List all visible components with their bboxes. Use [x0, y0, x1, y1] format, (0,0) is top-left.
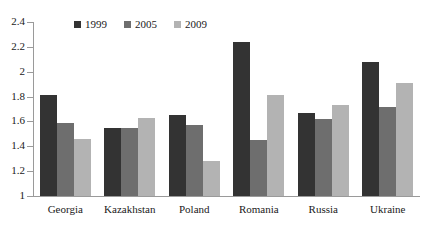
- bar[interactable]: [74, 139, 91, 196]
- y-axis-tick-label: 1: [1, 190, 25, 201]
- bar[interactable]: [138, 118, 155, 196]
- bar-group: [169, 22, 220, 196]
- bar-group: [298, 22, 349, 196]
- bar[interactable]: [362, 62, 379, 196]
- bar[interactable]: [203, 161, 220, 196]
- x-axis-category-label: Russia: [291, 203, 356, 215]
- bar[interactable]: [186, 125, 203, 196]
- bar[interactable]: [396, 83, 413, 196]
- x-axis-category-label: Ukraine: [356, 203, 421, 215]
- x-axis-category-label: Kazakhstan: [98, 203, 163, 215]
- bar[interactable]: [267, 95, 284, 196]
- x-axis-category-label: Romania: [227, 203, 292, 215]
- bar-chart: 11.21.41.61.822.22.4 199920052009 Georgi…: [0, 0, 425, 232]
- x-axis-line: [33, 196, 420, 197]
- plot-area: [33, 22, 420, 196]
- bar[interactable]: [57, 123, 74, 196]
- y-axis-tick: [27, 72, 33, 73]
- bar-group: [40, 22, 91, 196]
- y-axis-tick-label: 2: [1, 66, 25, 77]
- y-axis-tick-label: 1.8: [1, 91, 25, 102]
- bar[interactable]: [250, 140, 267, 196]
- bar[interactable]: [298, 113, 315, 196]
- y-axis-tick: [27, 47, 33, 48]
- bar[interactable]: [332, 105, 349, 196]
- bar[interactable]: [121, 128, 138, 196]
- bar[interactable]: [233, 42, 250, 196]
- bar-group: [104, 22, 155, 196]
- y-axis-tick: [27, 146, 33, 147]
- bar[interactable]: [169, 115, 186, 196]
- y-axis-tick-label: 1.6: [1, 115, 25, 126]
- y-axis-tick-label: 2.4: [1, 16, 25, 27]
- bar[interactable]: [104, 128, 121, 196]
- y-axis-tick-label: 1.2: [1, 165, 25, 176]
- y-axis-tick: [27, 121, 33, 122]
- bar[interactable]: [40, 95, 57, 196]
- y-axis-tick-label: 2.2: [1, 41, 25, 52]
- y-axis-labels: 11.21.41.61.822.22.4: [0, 0, 25, 232]
- bar-group: [233, 22, 284, 196]
- bar[interactable]: [379, 107, 396, 196]
- x-axis-category-label: Poland: [162, 203, 227, 215]
- y-axis-tick: [27, 22, 33, 23]
- y-axis-tick-label: 1.4: [1, 140, 25, 151]
- bar[interactable]: [315, 119, 332, 196]
- y-axis-tick: [27, 97, 33, 98]
- bar-group: [362, 22, 413, 196]
- y-axis-tick: [27, 196, 33, 197]
- x-axis-category-label: Georgia: [33, 203, 98, 215]
- y-axis-tick: [27, 171, 33, 172]
